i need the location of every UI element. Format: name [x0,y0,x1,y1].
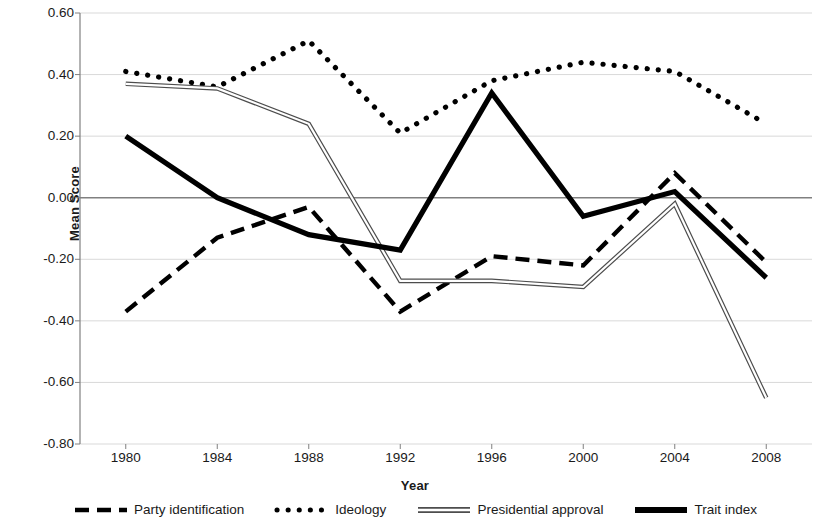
x-axis-tick-label: 1996 [457,450,527,465]
series-line-presidential-approval-outer [126,84,767,398]
dotted-line-icon [274,503,330,517]
x-axis-tick-label: 2000 [548,450,618,465]
x-axis-tick-label: 1992 [365,450,435,465]
double-line-icon [416,503,472,517]
series-line-ideology [126,41,767,133]
chart-legend: Party identificationIdeologyPresidential… [0,503,830,517]
legend-item[interactable]: Trait index [633,503,757,517]
thick-line-icon [633,503,689,517]
line-chart: Mean Score 0.600.400.200.00-0.20-0.40-0.… [0,0,830,528]
legend-item-label: Trait index [694,503,757,517]
x-axis-title: Year [0,478,830,493]
legend-item[interactable]: Ideology [274,503,386,517]
x-axis-tick-label: 1984 [182,450,252,465]
legend-item-label: Presidential approval [477,503,603,517]
x-axis-tick-label: 2004 [640,450,710,465]
legend-item-label: Party identification [134,503,244,517]
x-axis-tick-label: 1980 [91,450,161,465]
plot-area [0,0,830,528]
dashed-line-icon [73,503,129,517]
x-axis-tick-label: 1988 [274,450,344,465]
legend-item[interactable]: Presidential approval [416,503,603,517]
legend-item-label: Ideology [335,503,386,517]
series-line-presidential-approval-inner [126,84,767,398]
series-line-trait-index [126,93,767,278]
legend-item[interactable]: Party identification [73,503,244,517]
x-axis-tick-label: 2008 [731,450,801,465]
